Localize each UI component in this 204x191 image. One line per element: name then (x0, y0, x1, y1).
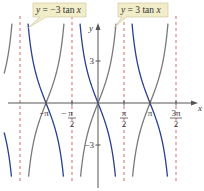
series-branch (28, 24, 63, 177)
callout-pos: y = 3 tan x (114, 3, 168, 28)
callout-label: y = 3 tan x (120, 5, 161, 15)
x-axis-label: x (197, 103, 202, 113)
x-tick-label: π (122, 108, 127, 118)
x-tick-label: 3π (171, 108, 181, 118)
x-tick-label: π (148, 108, 153, 118)
callout-eq: = −3 tan (40, 5, 77, 15)
series-branch (4, 133, 11, 177)
series-branch (29, 24, 64, 177)
series-branch (132, 24, 167, 177)
x-tick-label-denominator: 2 (122, 119, 127, 129)
x-axis-arrow-icon (191, 101, 198, 106)
curves (4, 24, 168, 177)
x-tick-label: −π (39, 108, 49, 118)
tangent-chart: x y −π− π2π2π3π23−3 y = −3 tan x y = 3 t… (0, 0, 204, 191)
y-axis-label: y (88, 23, 93, 33)
y-tick-label: −3 (84, 140, 94, 150)
y-tick-label: 3 (90, 56, 95, 66)
callout-var-x: x (155, 5, 161, 15)
callout-neg: y = −3 tan x (28, 3, 86, 28)
series-branch (133, 24, 168, 177)
callout-var-x: x (76, 5, 82, 15)
x-tick-label: − π (61, 108, 73, 118)
callout-label: y = −3 tan x (35, 5, 82, 15)
x-tick-label-denominator: 2 (174, 119, 179, 129)
callout-eq: = 3 tan (125, 5, 156, 15)
series-branch (4, 24, 12, 74)
y-axis-arrow-icon (96, 23, 101, 30)
axes: x y (8, 23, 202, 188)
x-tick-label-denominator: 2 (70, 119, 75, 129)
